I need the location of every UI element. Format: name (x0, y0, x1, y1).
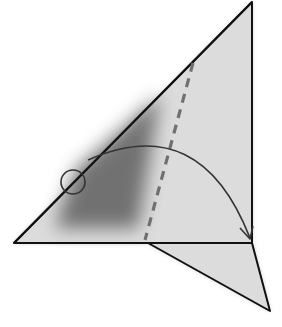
origami-fold-diagram (0, 0, 282, 327)
lower-flap (148, 243, 270, 311)
